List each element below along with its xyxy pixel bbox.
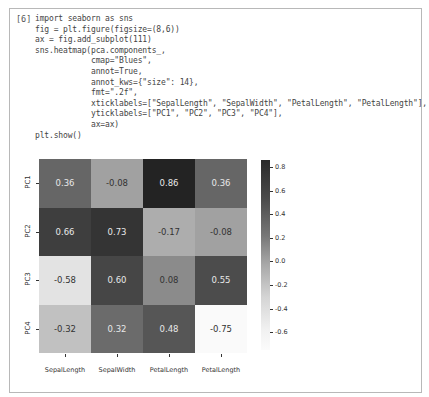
code-line: plt.show() xyxy=(35,131,427,142)
heatmap-cell: -0.17 xyxy=(143,208,195,257)
x-tick-label: PetalLength xyxy=(143,366,195,374)
code-line: ax = fig.add_subplot(111) xyxy=(35,35,427,46)
code-line: cmap="Blues", xyxy=(35,56,427,67)
y-tick xyxy=(36,280,39,281)
colorbar-tick xyxy=(270,167,273,168)
code-line: xticklabels=["SepalLength", "SepalWidth"… xyxy=(35,99,427,110)
heatmap-cell: 0.36 xyxy=(195,159,247,208)
code-line: annot=True, xyxy=(35,67,427,78)
heatmap-cell: -0.08 xyxy=(91,159,143,208)
heatmap-cell: 0.86 xyxy=(143,159,195,208)
colorbar-tick xyxy=(270,191,273,192)
colorbar-tick-label: 0.8 xyxy=(275,163,285,171)
x-tick xyxy=(117,354,118,357)
heatmap-cell: 0.60 xyxy=(91,256,143,305)
colorbar-tick xyxy=(270,261,273,262)
cell-prompt: [6] xyxy=(16,14,31,24)
code-line: sns.heatmap(pca.components_, xyxy=(35,46,427,57)
heatmap-cell: -0.58 xyxy=(39,256,91,305)
heatmap: 0.36-0.080.860.360.660.73-0.17-0.08-0.58… xyxy=(39,159,247,353)
colorbar-tick-label: 0.6 xyxy=(275,187,285,195)
y-tick xyxy=(36,232,39,233)
y-tick-label: PC1 xyxy=(24,172,32,192)
heatmap-cell: -0.32 xyxy=(39,305,91,354)
x-tick-label: SepalLength xyxy=(39,366,91,374)
code-line: import seaborn as sns xyxy=(35,14,427,25)
y-tick-label: PC3 xyxy=(24,269,32,289)
y-tick-label: PC4 xyxy=(24,318,32,338)
code-line: fmt=".2f", xyxy=(35,88,427,99)
heatmap-cell: 0.36 xyxy=(39,159,91,208)
colorbar xyxy=(261,160,270,350)
code-line: yticklabels=["PC1", "PC2", "PC3", "PC4"]… xyxy=(35,109,427,120)
colorbar-tick-label: -0.2 xyxy=(275,281,288,289)
colorbar-tick xyxy=(270,309,273,310)
colorbar-tick-label: 0.0 xyxy=(275,257,285,265)
heatmap-cell: 0.55 xyxy=(195,256,247,305)
x-tick xyxy=(65,354,66,357)
heatmap-cell: -0.75 xyxy=(195,305,247,354)
x-tick xyxy=(169,354,170,357)
colorbar-tick xyxy=(270,332,273,333)
colorbar-tick-label: -0.6 xyxy=(275,328,288,336)
x-tick-label: SepalWidth xyxy=(91,366,143,374)
heatmap-cell: -0.08 xyxy=(195,208,247,257)
heatmap-cell: 0.32 xyxy=(91,305,143,354)
y-tick-label: PC2 xyxy=(24,221,32,241)
heatmap-cell: 0.08 xyxy=(143,256,195,305)
heatmap-cell: 0.48 xyxy=(143,305,195,354)
colorbar-tick xyxy=(270,238,273,239)
code-line: annot_kws={"size": 14}, xyxy=(35,78,427,89)
colorbar-tick-label: 0.4 xyxy=(275,210,285,218)
colorbar-tick xyxy=(270,285,273,286)
heatmap-cell: 0.73 xyxy=(91,208,143,257)
heatmap-cell: 0.66 xyxy=(39,208,91,257)
y-tick xyxy=(36,183,39,184)
y-tick xyxy=(36,329,39,330)
code-line: fig = plt.figure(figsize=(8,6)) xyxy=(35,25,427,36)
colorbar-tick-label: -0.4 xyxy=(275,305,288,313)
x-tick-label: PetalLength xyxy=(195,366,247,374)
code-line: ax=ax) xyxy=(35,120,427,131)
code-block[interactable]: import seaborn as snsfig = plt.figure(fi… xyxy=(35,14,427,141)
colorbar-tick-label: 0.2 xyxy=(275,234,285,242)
colorbar-tick xyxy=(270,214,273,215)
x-tick xyxy=(221,354,222,357)
